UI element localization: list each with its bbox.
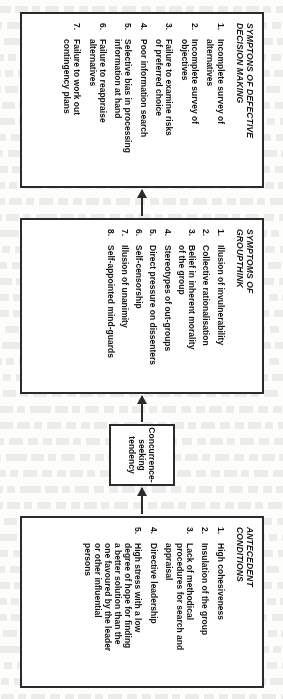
list-item: 7. Illusion of unanimity	[120, 229, 130, 383]
list-item: 5. Direct pressure on dissenters	[148, 229, 158, 383]
item-text: Lack of methodical procedures for search…	[164, 543, 194, 677]
page-background: SYMPTONS OF DEFECTIVE DECISION MAKING 1.…	[0, 0, 283, 699]
item-number: 3.	[185, 527, 195, 534]
item-text: High stress with a low degree of hope fo…	[83, 543, 144, 677]
item-number: 6.	[134, 229, 144, 236]
item-number: 4.	[139, 23, 149, 30]
arrow-concurrence-to-groupthink	[141, 396, 143, 422]
item-text: Insulation of the group	[200, 543, 210, 677]
list-item: 3. Lack of methodical procedures for sea…	[164, 527, 194, 677]
list-item: 4. Directive leadership	[149, 527, 159, 677]
item-number: 5.	[148, 229, 158, 236]
box-title-antecedent: ANTECEDENT CONDITIONS	[235, 527, 255, 677]
item-text: Collective rationalisation	[201, 245, 211, 383]
item-text: Direct pressure on dissenters	[148, 245, 158, 383]
item-text: Selective bias in processing information…	[113, 39, 133, 177]
list-item: 6. Self-censorship	[134, 229, 144, 383]
item-text: Failure to reappraise alternatives	[88, 39, 108, 177]
item-number: 5.	[133, 527, 143, 534]
node-label: Concurrence- seeking tendency	[127, 427, 158, 482]
item-text: Illusion of unanimity	[120, 245, 130, 383]
box-symptoms-of-defective-decision-making: SYMPTONS OF DEFECTIVE DECISION MAKING 1.…	[20, 12, 264, 188]
list-groupthink: 1. Illusion of invulnerability 2. Collec…	[105, 229, 225, 383]
list-item: 1. Incomplete survey of alternatives	[205, 23, 225, 177]
item-text: Failure to examine risks of preferred ch…	[154, 39, 174, 177]
list-item: 2. Collective rationalisation	[201, 229, 211, 383]
box-symptoms-of-groupthink: SYMPTOMS OF GROUPTHINK 1. Illusion of in…	[20, 218, 264, 394]
list-item: 1. High cohesiveness	[216, 527, 226, 677]
item-number: 3.	[164, 23, 174, 30]
item-text: High cohesiveness	[216, 543, 226, 677]
list-item: 4. Poor information search	[139, 23, 149, 177]
item-number: 4.	[163, 229, 173, 236]
item-number: 2.	[201, 229, 211, 236]
item-number: 7.	[120, 229, 130, 236]
box-title-groupthink: SYMPTOMS OF GROUPTHINK	[235, 229, 255, 383]
node-concurrence-seeking-tendency: Concurrence- seeking tendency	[109, 424, 175, 486]
item-text: Directive leadership	[149, 543, 159, 677]
item-number: 2.	[200, 527, 210, 534]
item-number: 1.	[216, 23, 226, 30]
list-item: 2. Incomplete survey of objectives	[180, 23, 200, 177]
item-number: 4.	[149, 527, 159, 534]
list-item: 6. Failure to reappraise alternatives	[88, 23, 108, 177]
item-text: Belief in inherent morality of the group	[177, 245, 197, 383]
item-text: Incomplete survey of alternatives	[205, 39, 225, 177]
item-number: 3.	[187, 229, 197, 236]
item-text: Illusion of invulnerability	[216, 245, 226, 383]
list-item: 5. Selective bias in processing informat…	[113, 23, 133, 177]
list-item: 3. Belief in inherent morality of the gr…	[177, 229, 197, 383]
item-number: 1.	[216, 229, 226, 236]
list-item: 5. High stress with a low degree of hope…	[83, 527, 144, 677]
list-item: 7. Failure to work out contingency plans	[62, 23, 82, 177]
box-title-defective: SYMPTONS OF DEFECTIVE DECISION MAKING	[235, 23, 255, 177]
list-item: 4. Stereotypes of out-groups	[163, 229, 173, 383]
list-item: 3. Failure to examine risks of preferred…	[154, 23, 174, 177]
item-number: 8.	[105, 229, 115, 236]
list-item: 8. Self-appointed mind-guards	[105, 229, 115, 383]
list-item: 1. Illusion of invulnerability	[216, 229, 226, 383]
arrow-antecedent-to-concurrence	[141, 488, 143, 514]
item-text: Self-censorship	[134, 245, 144, 383]
item-number: 2.	[190, 23, 200, 30]
item-text: Failure to work out contingency plans	[62, 39, 82, 177]
list-defective: 1. Incomplete survey of alternatives 2. …	[62, 23, 226, 177]
item-number: 1.	[216, 527, 226, 534]
item-number: 5.	[123, 23, 133, 30]
list-item: 2. Insulation of the group	[200, 527, 210, 677]
arrow-groupthink-to-defective	[141, 190, 143, 216]
box-antecedent-conditions: ANTECEDENT CONDITIONS 1. High cohesivene…	[20, 516, 264, 688]
item-text: Incomplete survey of objectives	[180, 39, 200, 177]
item-text: Self-appointed mind-guards	[105, 245, 115, 383]
list-antecedent: 1. High cohesiveness 2. Insulation of th…	[83, 527, 226, 677]
item-text: Poor information search	[139, 39, 149, 177]
item-number: 7.	[72, 23, 82, 30]
rotated-diagram-canvas: SYMPTONS OF DEFECTIVE DECISION MAKING 1.…	[0, 0, 283, 699]
item-number: 6.	[98, 23, 108, 30]
item-text: Stereotypes of out-groups	[163, 245, 173, 383]
